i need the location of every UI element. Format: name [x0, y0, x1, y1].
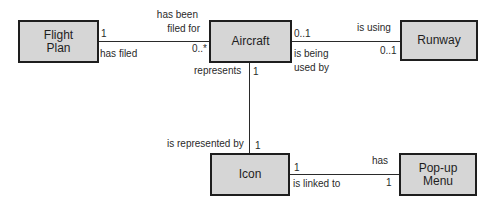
- entity-aircraft[interactable]: Aircraft: [209, 20, 292, 63]
- entity-icon-label: Icon: [239, 168, 262, 181]
- role-is-using: is using: [357, 22, 391, 33]
- multiplicity-popup-side: 1: [386, 177, 392, 188]
- entity-flight-plan-label-line1: Flight: [44, 29, 73, 42]
- role-represents: represents: [194, 65, 241, 76]
- multiplicity-aircraft-side-runway: 0..1: [294, 28, 311, 39]
- role-has-been-filed-for-line1: has been: [156, 9, 198, 20]
- role-has-been-filed-for-line2: filed for: [156, 23, 200, 34]
- multiplicity-aircraft-side-flightplan: 0..*: [192, 43, 207, 54]
- entity-popup-menu-label-line2: Menu: [419, 175, 458, 188]
- multiplicity-icon-side-popup: 1: [294, 162, 300, 173]
- role-has: has: [372, 155, 388, 166]
- association-line-icon-popup: [288, 174, 400, 175]
- multiplicity-aircraft-side-icon: 1: [253, 66, 259, 77]
- association-line-aircraft-icon: [249, 61, 250, 154]
- association-line-aircraft-runway: [290, 41, 401, 42]
- entity-aircraft-label: Aircraft: [231, 35, 269, 48]
- role-is-represented-by: is represented by: [167, 138, 244, 149]
- entity-flight-plan[interactable]: Flight Plan: [18, 20, 99, 63]
- multiplicity-runway-side: 0..1: [380, 45, 397, 56]
- entity-popup-menu[interactable]: Pop-up Menu: [399, 153, 477, 196]
- entity-runway[interactable]: Runway: [400, 20, 478, 61]
- role-is-being-used-by-line2: used by: [294, 62, 329, 73]
- association-line-flightplan-aircraft: [97, 41, 210, 42]
- multiplicity-flightplan-side: 1: [101, 28, 107, 39]
- role-is-being-used-by-line1: is being: [294, 48, 328, 59]
- entity-runway-label: Runway: [417, 34, 460, 47]
- role-is-linked-to: is linked to: [293, 178, 340, 189]
- entity-flight-plan-label-line2: Plan: [44, 42, 73, 55]
- entity-popup-menu-label-line1: Pop-up: [419, 162, 458, 175]
- role-has-filed: has filed: [100, 48, 137, 59]
- entity-icon[interactable]: Icon: [210, 153, 290, 196]
- multiplicity-icon-side-aircraft: 1: [255, 140, 261, 151]
